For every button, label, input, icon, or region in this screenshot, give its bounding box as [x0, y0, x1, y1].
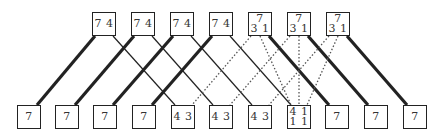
- edge-thick: [37, 36, 95, 105]
- top-node: 7 4: [131, 12, 155, 36]
- top-node: 7 4: [170, 12, 194, 36]
- bottom-node: 4 3: [171, 105, 195, 129]
- bottom-node: 7: [132, 105, 156, 129]
- tree-diagram: 7 47 47 47 473 173 173 1 77774 34 34 34 …: [0, 0, 442, 140]
- bottom-node: 7: [55, 105, 79, 129]
- top-node: 73 1: [248, 12, 272, 36]
- bottom-node: 7: [364, 105, 388, 129]
- bottom-node: 7: [17, 105, 41, 129]
- node-label: 7: [101, 112, 109, 122]
- node-label: 3 1: [329, 24, 348, 34]
- node-label: 3 1: [251, 24, 270, 34]
- node-label: 7 4: [95, 19, 114, 29]
- node-label: 7: [63, 112, 71, 122]
- node-label: 4 3: [212, 112, 231, 122]
- node-label: 7: [25, 112, 33, 122]
- node-label: 4 3: [174, 112, 193, 122]
- node-label: 3 1: [290, 24, 309, 34]
- edge-dotted: [307, 36, 338, 105]
- node-label: 7 4: [212, 19, 231, 29]
- node-label: 7: [372, 112, 380, 122]
- top-node: 7 4: [92, 12, 116, 36]
- node-label: 7 4: [173, 19, 192, 29]
- edge-thick: [308, 36, 368, 105]
- top-node: 7 4: [209, 12, 233, 36]
- bottom-node: 4 3: [209, 105, 233, 129]
- top-node: 73 1: [326, 12, 350, 36]
- node-label: 7: [333, 112, 341, 122]
- node-label: 7: [411, 112, 419, 122]
- edge-thick: [347, 36, 407, 105]
- bottom-node: 7: [325, 105, 349, 129]
- edge-thick: [75, 36, 134, 105]
- node-label: 7 4: [134, 19, 153, 29]
- node-label: 7: [140, 112, 148, 122]
- node-label: 1 1: [290, 117, 309, 127]
- node-label: 4 3: [251, 112, 270, 122]
- bottom-node: 7: [93, 105, 117, 129]
- edge-dotted: [260, 36, 291, 105]
- bottom-node: 4 11 1: [287, 105, 311, 129]
- bottom-node: 7: [403, 105, 427, 129]
- bottom-node: 4 3: [248, 105, 272, 129]
- top-node: 73 1: [287, 12, 311, 36]
